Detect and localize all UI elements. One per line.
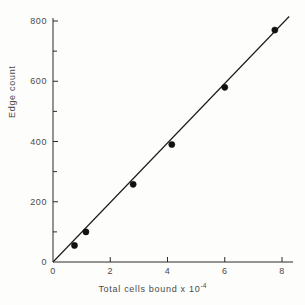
y-axis-title: Edge count	[8, 104, 17, 118]
x-tick-label-4: 4	[165, 267, 171, 276]
y-tick-label-0: 0	[18, 258, 47, 267]
regression-line	[53, 16, 289, 262]
y-tick-label-600: 600	[18, 77, 47, 86]
x-axis-title-exponent: -4	[200, 282, 206, 289]
x-axis-title: Total cells bound x 10-4	[0, 283, 305, 294]
x-axis-title-text: Total cells bound x 10	[98, 284, 200, 294]
x-axis-major-ticks	[110, 257, 282, 262]
data-point-2	[130, 181, 136, 187]
y-tick-label-800: 800	[18, 17, 47, 26]
y-tick-label-400: 400	[18, 137, 47, 146]
x-tick-label-8: 8	[279, 267, 285, 276]
data-point-3	[169, 141, 175, 147]
chart-figure: 020040060080002468 Edge count Total cell…	[0, 0, 305, 305]
data-point-1	[83, 229, 89, 235]
data-point-0	[71, 242, 77, 248]
x-tick-label-0: 0	[50, 267, 56, 276]
x-tick-label-6: 6	[222, 267, 228, 276]
data-point-5	[272, 27, 278, 33]
data-point-4	[222, 84, 228, 90]
fit-line	[53, 16, 289, 262]
y-tick-label-200: 200	[18, 197, 47, 206]
x-tick-label-2: 2	[107, 267, 113, 276]
